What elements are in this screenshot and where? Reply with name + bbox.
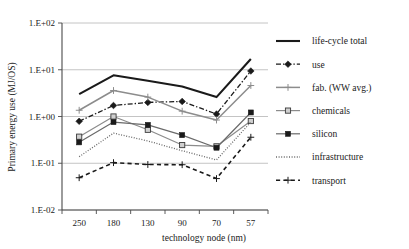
legend-item-fab-ww-avg[interactable]: fab. (WW avg.) (276, 83, 371, 94)
legend-item-chemicals[interactable]: chemicals (276, 106, 350, 116)
legend-label: life-cycle total (312, 36, 367, 46)
data-point-marker (180, 142, 185, 147)
series-chemicals (77, 114, 254, 149)
legend-item-use[interactable]: use (276, 60, 325, 70)
line-chart: 1.E+021.E+011.E+001.E-011.E-022501801309… (0, 0, 409, 249)
data-point-marker (77, 140, 82, 145)
data-point-marker (111, 120, 116, 125)
x-axis-tick-label: 70 (212, 218, 222, 228)
data-point-marker (76, 118, 83, 125)
series-transport (76, 134, 254, 182)
series-line (79, 59, 251, 97)
legend-label: fab. (WW avg.) (312, 83, 371, 94)
data-point-marker (111, 114, 116, 119)
data-point-marker (285, 61, 292, 68)
data-point-marker (77, 134, 82, 139)
data-point-marker (285, 108, 290, 113)
figure: 1.E+021.E+011.E+001.E-011.E-022501801309… (0, 0, 409, 249)
data-point-marker (286, 131, 291, 136)
x-axis-title: technology node (nm) (162, 233, 246, 244)
series-silicon (77, 110, 254, 150)
x-axis-tick-label: 180 (107, 218, 121, 228)
legend-item-infrastructure[interactable]: infrastructure (276, 152, 363, 162)
legend-label: infrastructure (312, 152, 363, 162)
x-axis-tick-label: 90 (178, 218, 188, 228)
legend-item-life-cycle-total[interactable]: life-cycle total (276, 36, 367, 46)
y-axis-tick-label: 1.E-02 (31, 205, 55, 215)
data-point-marker (110, 102, 117, 109)
y-axis-title: Primary energy use (MJ/OS) (7, 62, 18, 171)
legend-label: silicon (312, 129, 338, 139)
y-axis-tick-label: 1.E+02 (29, 18, 55, 28)
series-line (79, 117, 251, 147)
x-axis-tick-label: 250 (72, 218, 86, 228)
legend-label: transport (312, 176, 346, 186)
data-point-marker (145, 122, 150, 127)
data-point-marker (145, 127, 150, 132)
data-point-marker (180, 133, 185, 138)
y-axis-tick-label: 1.E+01 (29, 65, 55, 75)
y-axis-tick-label: 1.E-01 (31, 158, 55, 168)
data-point-marker (214, 145, 219, 150)
x-axis-tick-label: 130 (141, 218, 155, 228)
series-life-cycle-total (79, 59, 251, 97)
series-fab-ww-avg (76, 82, 254, 123)
series-line (79, 137, 251, 178)
legend-label: use (312, 60, 325, 70)
legend-label: chemicals (312, 106, 350, 116)
legend-item-transport[interactable]: transport (276, 176, 346, 186)
series-line (79, 112, 251, 147)
y-axis-tick-label: 1.E+00 (29, 112, 56, 122)
data-point-marker (179, 98, 186, 105)
legend-item-silicon[interactable]: silicon (276, 129, 338, 139)
x-axis-tick-label: 57 (246, 218, 256, 228)
data-point-marker (248, 110, 253, 115)
